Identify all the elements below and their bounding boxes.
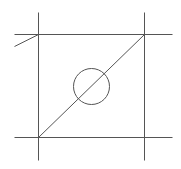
diagonal-line bbox=[39, 35, 145, 138]
lines-group bbox=[15, 13, 173, 161]
diagram-canvas bbox=[0, 0, 181, 169]
slant-stub-line bbox=[15, 35, 39, 47]
